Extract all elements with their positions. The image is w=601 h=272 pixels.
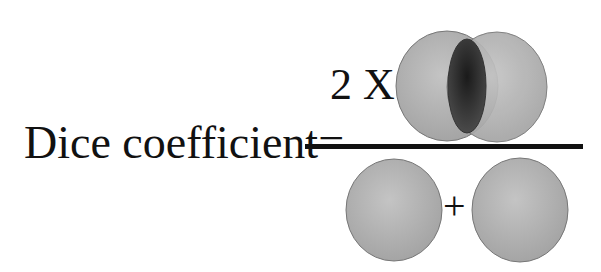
numerator-venn (396, 31, 547, 142)
dice-coefficient-diagram: Dice coefficient= 2 X + (0, 0, 601, 272)
plus-operator: + (443, 186, 466, 226)
intersection-icon (448, 39, 486, 133)
numerator-multiplier: 2 X (330, 60, 395, 110)
set-a-circle-icon (346, 159, 442, 261)
set-b-circle-icon (472, 158, 568, 262)
formula-label: Dice coefficient= (24, 118, 344, 168)
fraction-bar (305, 144, 583, 149)
